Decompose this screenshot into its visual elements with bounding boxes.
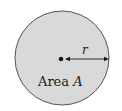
- area-label-text: Area: [37, 74, 73, 89]
- area-label: Area A: [37, 74, 83, 89]
- center-point: [59, 57, 64, 62]
- circle-diagram: r Area A: [0, 0, 122, 111]
- area-label-var: A: [72, 74, 82, 89]
